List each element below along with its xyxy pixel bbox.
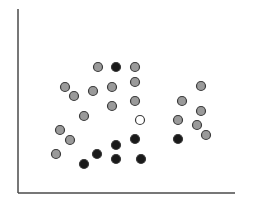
data-point-gray (108, 83, 117, 92)
data-point-gray (80, 112, 89, 121)
data-point-black (93, 150, 102, 159)
data-point-gray (66, 136, 75, 145)
data-point-gray (56, 126, 65, 135)
data-points (52, 63, 211, 169)
data-point-black (112, 63, 121, 72)
data-point-black (137, 155, 146, 164)
data-point-gray (197, 82, 206, 91)
data-point-gray (197, 107, 206, 116)
data-point-gray (108, 102, 117, 111)
data-point-gray (61, 83, 70, 92)
data-point-black (112, 155, 121, 164)
data-point-gray (94, 63, 103, 72)
data-point-gray (52, 150, 61, 159)
data-point-gray (131, 97, 140, 106)
series-white (136, 116, 145, 125)
axes (18, 9, 235, 193)
series-black (80, 63, 183, 169)
data-point-black (174, 135, 183, 144)
series-gray (52, 63, 211, 159)
data-point-black (80, 160, 89, 169)
scatter-chart (0, 0, 253, 200)
data-point-gray (131, 63, 140, 72)
data-point-gray (131, 78, 140, 87)
data-point-black (131, 135, 140, 144)
data-point-gray (193, 121, 202, 130)
data-point-black (112, 141, 121, 150)
data-point-gray (178, 97, 187, 106)
data-point-gray (174, 116, 183, 125)
data-point-gray (202, 131, 211, 140)
data-point-white (136, 116, 145, 125)
data-point-gray (89, 87, 98, 96)
data-point-gray (70, 92, 79, 101)
